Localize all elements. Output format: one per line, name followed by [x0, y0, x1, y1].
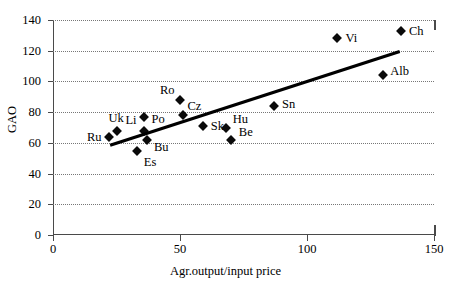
data-point-label-cz: Cz	[188, 100, 202, 113]
y-tick-label-40: 40	[29, 168, 42, 181]
data-point-label-bu: Bu	[154, 141, 169, 154]
x-tick-label-0: 0	[33, 243, 73, 256]
gridline-y-40	[53, 174, 434, 175]
x-tick-mark-100	[307, 235, 308, 241]
y-tick-label-80: 80	[29, 106, 42, 119]
data-point-label-ch: Ch	[409, 25, 424, 38]
data-point-label-uk: Uk	[109, 111, 124, 124]
y-tick-mark-120	[48, 51, 53, 52]
y-tick-label-120: 120	[22, 45, 41, 58]
y-tick-mark-80	[48, 112, 53, 113]
data-point-label-be: Be	[239, 126, 253, 139]
x-tick-label-150: 150	[414, 243, 451, 256]
y-tick-mark-100	[48, 81, 53, 82]
x-tick-mark-150	[434, 235, 435, 241]
gridline-y-20	[53, 204, 434, 205]
y-tick-mark-20	[48, 204, 53, 205]
y-tick-label-100: 100	[22, 75, 41, 88]
y-tick-mark-60	[48, 143, 53, 144]
y-axis-title: GAO	[5, 90, 20, 150]
y-tick-label-20: 20	[29, 198, 42, 211]
x-axis-title: Agr.output/input price	[0, 264, 451, 279]
gridline-y-120	[53, 51, 434, 52]
x-tick-label-100: 100	[287, 243, 327, 256]
y-tick-mark-140	[48, 20, 53, 21]
data-point-label-sn: Sn	[282, 98, 295, 111]
y-tick-label-0: 0	[35, 229, 41, 242]
x-tick-mark-0	[53, 235, 54, 241]
x-tick-mark-50	[180, 235, 181, 241]
gridline-y-100	[53, 81, 434, 82]
data-point-label-li: Li	[125, 113, 136, 126]
y-tick-label-60: 60	[29, 137, 42, 150]
x-tick-label-50: 50	[160, 243, 200, 256]
data-point-label-hu: Hu	[233, 112, 248, 125]
plot-frame-right-top-tick	[434, 20, 436, 30]
data-point-label-vi: Vi	[345, 32, 357, 45]
y-tick-mark-40	[48, 174, 53, 175]
gridline-y-140	[53, 20, 434, 21]
y-tick-label-140: 140	[22, 14, 41, 27]
scatter-chart: 020406080100120140050100150RuUkEsLiBuPoR…	[0, 0, 451, 290]
data-point-label-es: Es	[144, 155, 157, 168]
data-point-label-ro: Ro	[160, 84, 175, 97]
data-point-label-ru: Ru	[87, 130, 102, 143]
data-point-label-alb: Alb	[390, 65, 409, 78]
data-point-label-po: Po	[151, 113, 164, 126]
gridline-y-60	[53, 143, 434, 144]
